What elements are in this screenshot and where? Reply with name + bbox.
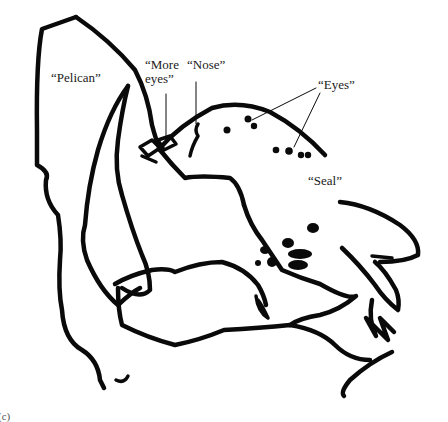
panel-label: (c): [0, 410, 10, 422]
body-bottom-line: [118, 288, 370, 360]
seal-head-top: [160, 105, 325, 155]
label-eyes: “Eyes”: [318, 78, 355, 91]
seal-eye-spots: [224, 116, 312, 159]
label-seal: “Seal”: [308, 174, 342, 187]
seal-flipper-stub: [372, 256, 392, 258]
seal-whisker-spots: [255, 223, 319, 270]
seal-chin: [160, 150, 244, 205]
eyes-leader-1: [252, 88, 316, 120]
seal-nose: [190, 124, 198, 156]
label-more-eyes: eyes”: [145, 72, 174, 85]
label-nose: “Nose”: [187, 58, 225, 71]
pelican-beak-inner: [83, 86, 140, 305]
seal-flipper-upper: [340, 202, 418, 262]
body-crossing-line: [115, 262, 266, 305]
pelican-foot-hook: [116, 376, 128, 381]
label-more: “More: [145, 58, 179, 71]
pelican-beak-lower: [117, 86, 150, 295]
label-pelican: “Pelican”: [51, 71, 101, 84]
